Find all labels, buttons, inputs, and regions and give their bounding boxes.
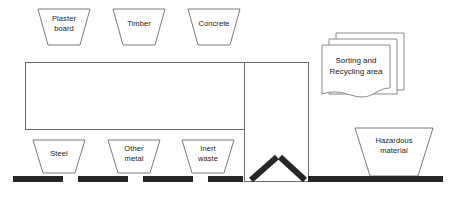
floor-dash-1: [13, 176, 63, 182]
diagram-canvas: [0, 0, 462, 209]
floor-dash-5: [308, 176, 443, 182]
floor-dash-2: [78, 176, 128, 182]
hopper-inert-waste: [182, 140, 234, 173]
hopper-timber: [113, 9, 165, 45]
sorting-hall-rect: [26, 63, 245, 130]
hopper-hazardous-material: [355, 128, 433, 176]
label-sorting-recycling-area: Sorting and Recycling area: [322, 55, 390, 77]
waste-sorting-diagram: Plaster board Timber Concrete Steel Othe…: [0, 0, 462, 209]
hopper-plaster-board: [38, 9, 90, 45]
hopper-concrete: [188, 9, 240, 45]
hopper-steel: [33, 140, 85, 173]
floor-dash-4: [208, 176, 243, 182]
floor-dash-3: [143, 176, 193, 182]
hopper-other-metal: [108, 140, 160, 173]
transfer-bay-rect: [245, 63, 309, 182]
